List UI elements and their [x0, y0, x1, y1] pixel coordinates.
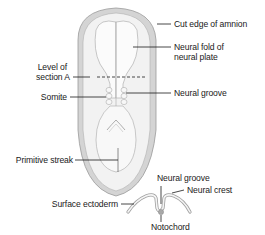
label-somite: Somite [0, 92, 67, 102]
embryo-diagram: Cut edge of amnion Neural fold of neural… [0, 0, 265, 235]
label-notochord: Notochord [151, 222, 190, 232]
label-level-of-section-line2: section A [0, 72, 70, 82]
label-primitive-streak: Primitive streak [0, 155, 73, 165]
label-cut-edge-of-amnion: Cut edge of amnion [174, 19, 247, 29]
somites-left [106, 87, 112, 104]
label-neural-groove-section: Neural groove [157, 173, 210, 183]
label-neural-crest: Neural crest [187, 185, 232, 195]
label-neural-fold-line1: Neural fold of [174, 42, 224, 52]
caudal-region [96, 106, 136, 172]
notochord-circle [158, 209, 163, 214]
label-level-of-section-line1: Level of [0, 62, 67, 72]
label-surface-ectoderm: Surface ectoderm [0, 199, 118, 209]
label-neural-groove-top: Neural groove [174, 88, 227, 98]
cross-section-ectoderm [128, 195, 190, 212]
somites-right [121, 87, 127, 104]
label-neural-fold-line2: neural plate [174, 52, 218, 62]
